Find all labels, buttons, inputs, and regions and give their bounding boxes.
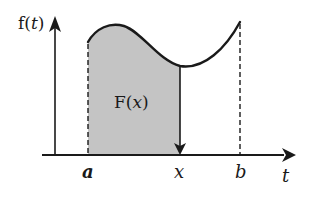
x-axis-arrow-icon — [282, 148, 296, 162]
region-label: F(x) — [114, 92, 149, 112]
integral-diagram: f(t) F(x) a x b t — [0, 0, 314, 205]
tick-label-x: x — [174, 161, 184, 182]
tick-label-b: b — [235, 161, 247, 182]
tick-label-a: a — [82, 161, 94, 182]
x-axis-label: t — [282, 165, 290, 186]
shaded-area-F-x — [88, 25, 180, 155]
y-axis-label: f(t) — [18, 13, 44, 33]
